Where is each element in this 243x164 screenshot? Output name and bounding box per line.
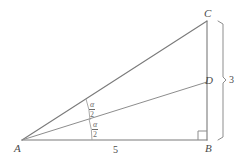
angle-label-upper: α 2 <box>89 101 95 119</box>
fraction-upper-numerator: α <box>89 101 95 109</box>
right-angle-marker <box>198 131 207 140</box>
vertex-label-B: B <box>205 143 212 154</box>
vertex-label-A: A <box>14 143 21 154</box>
measure-label-ab: 5 <box>113 145 118 155</box>
measure-label-bc: 3 <box>229 75 234 85</box>
fraction-lower-numerator: α <box>92 121 98 129</box>
fraction-lower: α 2 <box>92 121 98 139</box>
measure-brace-bc <box>218 21 226 140</box>
segment-AD <box>22 82 207 140</box>
angle-label-lower: α 2 <box>92 121 98 139</box>
geometry-figure: A B C D 5 3 α 2 α 2 <box>0 0 243 164</box>
vertex-label-C: C <box>204 8 211 19</box>
fraction-lower-denominator: 2 <box>92 130 98 139</box>
fraction-upper-denominator: 2 <box>89 110 95 119</box>
vertex-label-D: D <box>205 75 213 86</box>
fraction-upper: α 2 <box>89 101 95 119</box>
segment-AC <box>22 21 207 140</box>
